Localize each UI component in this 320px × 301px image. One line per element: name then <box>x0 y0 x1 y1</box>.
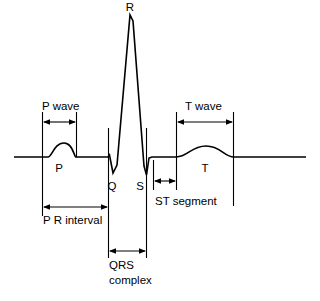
st-segment-arrow-right-icon <box>169 178 176 183</box>
pr-interval-annotation: P R interval <box>43 204 108 226</box>
t-wave-arrow-right-icon <box>226 119 233 124</box>
qrs-complex-annotation: QRS complex <box>109 248 152 286</box>
p-wave-arrow-right-icon <box>69 119 76 124</box>
ecg-waveform-diagram: P Q R S T P wave T wave P R interval ST … <box>0 0 320 301</box>
r-wave-point-label: R <box>126 1 134 13</box>
p-wave-point-label: P <box>55 162 63 174</box>
t-wave-arrow-left-icon <box>177 119 184 124</box>
pr-interval-label: P R interval <box>43 214 102 226</box>
q-wave-point-label: Q <box>108 180 117 192</box>
st-segment-label: ST segment <box>155 195 218 207</box>
qrs-complex-label-line1: QRS <box>109 259 134 271</box>
ecg-trace <box>14 15 306 175</box>
t-wave-label: T wave <box>185 100 222 112</box>
wave-point-labels: P Q R S T <box>55 1 208 192</box>
p-wave-annotation: P wave <box>42 100 80 125</box>
p-wave-label: P wave <box>42 100 80 112</box>
t-wave-point-label: T <box>201 162 208 174</box>
pr-interval-arrow-left-icon <box>43 204 50 209</box>
qrs-complex-arrow-left-icon <box>109 248 116 253</box>
p-wave-arrow-left-icon <box>43 119 50 124</box>
qrs-complex-label-line2: complex <box>109 274 152 286</box>
st-segment-arrow-left-icon <box>154 178 161 183</box>
ecg-trace-group <box>14 15 306 175</box>
pr-interval-arrow-right-icon <box>101 204 108 209</box>
qrs-complex-arrow-right-icon <box>139 248 146 253</box>
s-wave-point-label: S <box>136 180 144 192</box>
st-segment-annotation: ST segment <box>154 178 218 207</box>
t-wave-annotation: T wave <box>177 100 233 125</box>
